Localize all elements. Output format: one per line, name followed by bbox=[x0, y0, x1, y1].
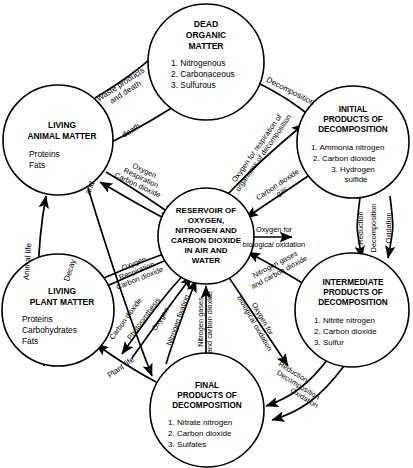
label-carbon-dioxide-gas: Carbon dioxide gas bbox=[254, 167, 305, 209]
node-title-line: FINAL bbox=[195, 381, 219, 390]
node-title-line: MATTER bbox=[188, 41, 224, 51]
node-title-line: WATER bbox=[192, 256, 221, 265]
label-nitrogen-gases-left: Nitrogen gases and carbon dioxide bbox=[196, 291, 214, 353]
cycle-diagram: DEAD ORGANIC MATTER 1. Nitrogenous 2. Ca… bbox=[0, 0, 413, 468]
node-item: 3. Hydrogen bbox=[331, 165, 375, 174]
node-title-line: INTERMEDIATE bbox=[323, 278, 384, 287]
node-title-line: DEAD bbox=[194, 19, 218, 29]
svg-text:Nitrogen gases: Nitrogen gases bbox=[196, 297, 205, 347]
node-living-animal-matter[interactable]: LIVING ANIMAL MATTER Proteins Fats bbox=[3, 85, 113, 195]
label-oxidation-right: Oxidation bbox=[384, 212, 393, 243]
node-final-products-of-decomposition[interactable]: FINAL PRODUCTS OF DECOMPOSITION 1. Nitra… bbox=[150, 353, 264, 467]
node-item: Proteins bbox=[22, 314, 53, 324]
node-title-line: LIVING bbox=[48, 120, 76, 130]
node-living-plant-matter[interactable]: LIVING PLANT MATTER Proteins Carbohydrat… bbox=[2, 254, 114, 366]
svg-text:and carbon dioxide: and carbon dioxide bbox=[205, 291, 214, 353]
node-item: 1. Nitrite nitrogen bbox=[314, 316, 375, 325]
label-oxygen-bio-oxidation-diagonal: Oxygen for biological oxidation bbox=[235, 289, 282, 352]
node-item: 2. Carbon dioxide bbox=[313, 154, 376, 163]
node-title-line: PRODUCTS OF bbox=[323, 115, 383, 124]
node-reservoir[interactable]: RESERVOIR OF OXYGEN, NITROGEN AND CARBON… bbox=[158, 188, 254, 284]
label-death: death bbox=[120, 121, 142, 139]
node-item: 1. Ammonia nitrogen bbox=[311, 143, 384, 152]
node-title-line: RESERVOIR OF bbox=[176, 206, 236, 215]
node-title-line: PRODUCTS OF bbox=[323, 288, 383, 297]
node-title-line: INITIAL bbox=[339, 105, 368, 114]
node-circle bbox=[150, 353, 264, 467]
node-item: Fats bbox=[22, 336, 38, 346]
node-item: 2. Carbon dioxide bbox=[314, 327, 377, 336]
node-dead-organic-matter[interactable]: DEAD ORGANIC MATTER 1. Nitrogenous 2. Ca… bbox=[148, 4, 264, 120]
svg-text:biological oxidation: biological oxidation bbox=[243, 240, 305, 249]
node-item: Proteins bbox=[29, 149, 60, 159]
svg-text:Oxidation: Oxidation bbox=[384, 212, 393, 243]
node-item: 3. Sulfates bbox=[168, 440, 206, 449]
node-circle bbox=[2, 254, 114, 366]
node-title-line: ANIMAL MATTER bbox=[27, 131, 96, 141]
node-item: 2. Carbonaceous bbox=[171, 69, 235, 79]
node-title-line: DECOMPOSITION bbox=[172, 401, 242, 410]
label-waste-products-and-death: Waste products and death bbox=[95, 66, 151, 111]
node-title-line: NITROGEN AND bbox=[175, 226, 237, 235]
svg-text:death: death bbox=[120, 121, 142, 139]
label-nitrogen-gases-right: Nitrogen gases and carbon dioxide bbox=[245, 246, 309, 291]
node-item: 3. Sulfurous bbox=[171, 80, 216, 90]
label-reduction-right: Reduction bbox=[356, 211, 365, 244]
svg-text:Oxygen for: Oxygen for bbox=[256, 225, 293, 234]
node-intermediate-products-of-decomposition[interactable]: INTERMEDIATE PRODUCTS OF DECOMPOSITION 1… bbox=[295, 253, 409, 367]
svg-text:Decomposition: Decomposition bbox=[369, 204, 378, 253]
node-title-line: IN AIR AND bbox=[185, 246, 228, 255]
node-item: 1. Nitrogenous bbox=[171, 58, 225, 68]
node-title-line: DECOMPOSITION bbox=[318, 125, 388, 134]
svg-text:Reduction: Reduction bbox=[356, 211, 365, 244]
node-item: 3. Sulfur bbox=[314, 338, 344, 347]
node-item: Fats bbox=[29, 160, 45, 170]
node-title-line: ORGANIC bbox=[186, 30, 227, 40]
label-decomposition-right: Decomposition bbox=[369, 204, 378, 253]
node-item: 1. Nitrate nitrogen bbox=[168, 418, 232, 427]
node-title-line: CARBON DIOXIDE bbox=[171, 236, 242, 245]
node-title-line: PRODUCTS OF bbox=[177, 391, 237, 400]
node-item: Carbohydrates bbox=[22, 325, 77, 335]
node-title-line: PLANT MATTER bbox=[30, 297, 95, 307]
node-title-line: LIVING bbox=[48, 286, 76, 296]
node-title-line: DECOMPOSITION bbox=[318, 298, 388, 307]
node-title-line: OXYGEN, bbox=[188, 216, 224, 225]
cycle-diagram-canvas: DEAD ORGANIC MATTER 1. Nitrogenous 2. Ca… bbox=[0, 0, 413, 468]
svg-text:Nitrogen fixation: Nitrogen fixation bbox=[164, 293, 191, 346]
node-item: 2. Carbon dioxide bbox=[168, 429, 232, 438]
label-nitrogen-fixation: Nitrogen fixation bbox=[164, 293, 191, 346]
nodes-layer: DEAD ORGANIC MATTER 1. Nitrogenous 2. Ca… bbox=[2, 4, 409, 467]
node-circle bbox=[295, 253, 409, 367]
node-item: sulfide bbox=[344, 175, 368, 184]
